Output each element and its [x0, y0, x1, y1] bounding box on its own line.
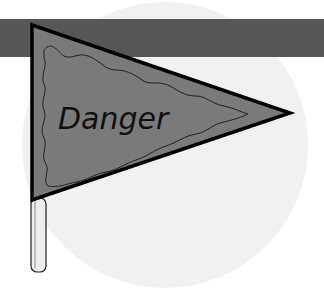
flag-label: Danger	[58, 101, 170, 136]
flag-pole	[31, 198, 46, 272]
danger-flag-illustration: Danger	[0, 0, 324, 292]
